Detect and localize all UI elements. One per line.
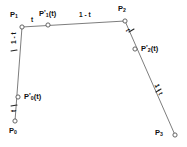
edge-p1-p2: [22, 21, 125, 27]
label-p3-subscript: 3: [160, 131, 163, 137]
marker-q2: [133, 47, 137, 51]
ratio-label-left-upper: 1 - t: [11, 32, 18, 44]
ratio-label-left-lower: t: [11, 110, 18, 112]
label-q1: P'1(t): [39, 9, 56, 19]
marker-p2: [123, 19, 127, 23]
label-q1-argument: (t): [49, 9, 57, 18]
label-q2-argument: (t): [151, 44, 159, 53]
tick-left-upper: [11, 50, 17, 51]
marker-q1: [46, 23, 50, 27]
label-p1-subscript: 1: [15, 13, 18, 19]
label-p0-subscript: 0: [14, 129, 17, 135]
label-p1: P1: [10, 11, 18, 20]
label-q2: P'2(t): [141, 44, 158, 54]
figure-canvas: [0, 0, 187, 147]
label-p2: P2: [118, 5, 126, 14]
edge-p2-p3: [125, 21, 175, 135]
ratio-label-top-right: 1 - t: [79, 12, 91, 19]
marker-q0: [16, 95, 20, 99]
label-q0: P'0(t): [24, 92, 41, 102]
marker-p1: [20, 25, 24, 29]
bezier-decasteljau-figure: P1 P2 P0 P3 P'1(t) P'2(t) P'0(t) t 1 - t…: [0, 0, 187, 147]
marker-p0: [13, 119, 17, 123]
label-p2-subscript: 2: [123, 7, 126, 13]
ratio-label-top-left: t: [31, 17, 33, 24]
label-p0: P0: [9, 127, 17, 136]
label-p3: P3: [155, 129, 163, 138]
control-polygon-edges: [15, 21, 175, 135]
point-markers: [13, 19, 177, 137]
marker-p3: [173, 133, 177, 137]
label-q0-argument: (t): [34, 92, 42, 101]
